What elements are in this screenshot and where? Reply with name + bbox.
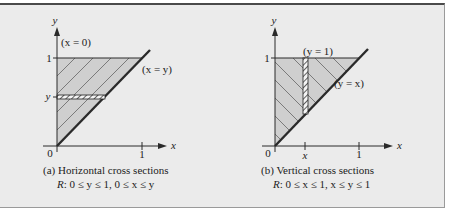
- y-axis-label-b: y: [271, 14, 277, 26]
- horizontal-strip: [57, 95, 105, 99]
- x-tick-label-x-b: x: [302, 149, 308, 161]
- y-axis-label-a: y: [52, 14, 58, 26]
- caption-b-region: R: 0 ≤ x ≤ 1, x ≤ y ≤ 1: [272, 178, 370, 190]
- boundary-label-x-eq-y: (x = y): [142, 63, 172, 76]
- origin-label-b: 0: [265, 147, 271, 159]
- boundary-label-y-eq-1: (y = 1): [303, 45, 333, 58]
- caption-a-region: R: 0 ≤ y ≤ 1, 0 ≤ x ≤ y: [56, 178, 155, 190]
- boundary-label-y-eq-x: (y = x): [334, 77, 364, 90]
- origin-label-a: 0: [47, 147, 53, 159]
- x-axis-arrow-icon: [158, 143, 167, 149]
- panel-b: y x 0 x 1 1 (y = 1) (y = x) (b) Vertical…: [261, 14, 402, 190]
- x-axis-arrow-icon: [384, 143, 393, 149]
- caption-b-title: (b) Vertical cross sections: [261, 164, 374, 177]
- x-axis-label-b: x: [396, 139, 402, 151]
- y-tick-label-y-a: y: [45, 90, 51, 102]
- x-tick-label-1-b: 1: [356, 148, 362, 160]
- y-axis-arrow-icon: [272, 27, 278, 36]
- x-tick-label-1-a: 1: [139, 148, 145, 160]
- y-tick-label-1-a: 1: [46, 52, 52, 64]
- boundary-label-x-eq-0: (x = 0): [61, 36, 91, 49]
- x-axis-label-a: x: [170, 139, 176, 151]
- y-axis-arrow-icon: [54, 27, 60, 36]
- figure-svg: y x 0 1 1 y (x = 0) (x = y) (a) Horizont…: [0, 0, 450, 214]
- caption-a-title: (a) Horizontal cross sections: [43, 164, 169, 177]
- vertical-strip: [303, 58, 308, 114]
- panel-a: y x 0 1 1 y (x = 0) (x = y) (a) Horizont…: [43, 14, 176, 190]
- y-tick-label-1-b: 1: [264, 52, 270, 64]
